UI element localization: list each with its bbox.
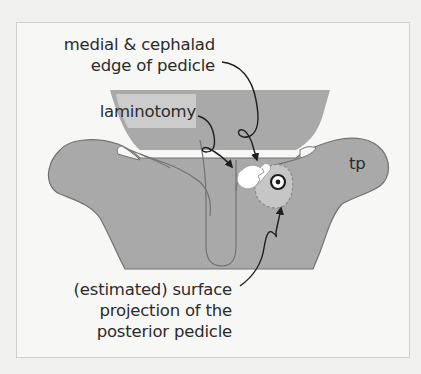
label-line: tp (349, 153, 366, 174)
label-line: posterior pedicle (74, 321, 232, 342)
bullseye-icon (271, 175, 285, 189)
label-medial-cephalad-edge: medial & cephalad edge of pedicle (64, 34, 215, 76)
label-line: medial & cephalad (64, 34, 215, 55)
label-pedicle-projection: (estimated) surface projection of the po… (74, 279, 232, 342)
label-line: laminotomy (100, 101, 196, 122)
label-line: edge of pedicle (64, 55, 215, 76)
label-line: projection of the (74, 300, 232, 321)
vertebra-body (48, 138, 388, 269)
label-line: (estimated) surface (74, 279, 232, 300)
label-transverse-process: tp (349, 153, 366, 174)
label-laminotomy: laminotomy (100, 101, 196, 122)
